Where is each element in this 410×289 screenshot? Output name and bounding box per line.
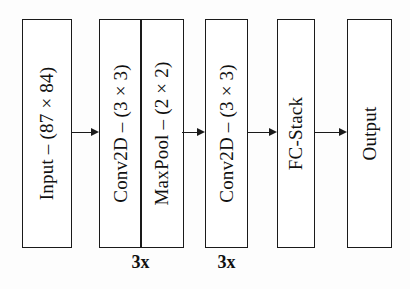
block-maxpool-label: MaxPool – (2 × 2): [153, 62, 172, 206]
block-conv2d-1-label: Conv2D – (3 × 3): [110, 64, 129, 202]
block-fc-stack-label-wrapper: FC-Stack: [278, 20, 314, 247]
block-conv2d-2-label: Conv2D – (3 × 3): [217, 64, 236, 202]
block-output: Output: [347, 19, 392, 248]
block-input-label-wrapper: Input – (87 × 84): [23, 20, 71, 247]
arrow-conv-pool-to-conv2d-2-head: [197, 128, 205, 136]
repeat-label-conv2d-2: 3x: [205, 253, 248, 271]
block-maxpool: MaxPool – (2 × 2): [141, 19, 184, 249]
block-fc-stack-label: FC-Stack: [287, 97, 306, 170]
arrow-fc-stack-to-output-head: [339, 128, 347, 136]
arrow-conv2d-2-to-fc-stack-head: [269, 128, 277, 136]
block-conv-pool-group: Conv2D – (3 × 3) MaxPool – (2 × 2): [99, 19, 182, 248]
block-conv2d-1: Conv2D – (3 × 3): [99, 19, 142, 249]
block-output-label: Output: [360, 107, 379, 161]
block-fc-stack: FC-Stack: [277, 19, 315, 248]
block-conv2d-2: Conv2D – (3 × 3): [205, 19, 248, 248]
block-input-label: Input – (87 × 84): [38, 67, 57, 200]
arrow-fc-stack-to-output-line: [315, 132, 339, 133]
block-conv2d-2-label-wrapper: Conv2D – (3 × 3): [206, 20, 247, 247]
block-conv2d-1-label-wrapper: Conv2D – (3 × 3): [100, 20, 141, 248]
arrow-conv2d-2-to-fc-stack-line: [248, 132, 269, 133]
arrow-conv-pool-to-conv2d-2-line: [182, 132, 197, 133]
network-architecture-diagram: Input – (87 × 84) Conv2D – (3 × 3) MaxPo…: [0, 0, 410, 289]
block-input: Input – (87 × 84): [22, 19, 72, 248]
block-maxpool-label-wrapper: MaxPool – (2 × 2): [142, 20, 183, 248]
repeat-label-conv-pool-group: 3x: [99, 253, 182, 271]
block-output-label-wrapper: Output: [348, 20, 391, 247]
arrow-input-to-conv-pool-line: [72, 132, 91, 133]
